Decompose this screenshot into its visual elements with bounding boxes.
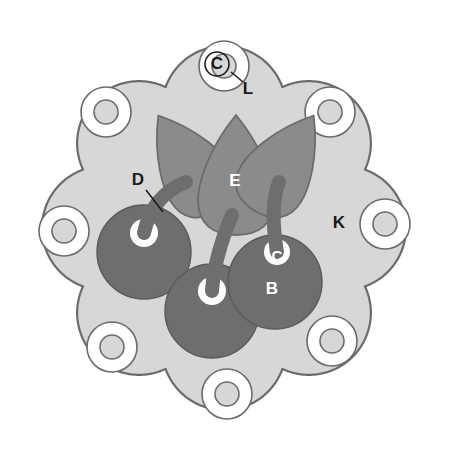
ring-inner-circle [318, 100, 342, 124]
ring-inner-circle [52, 219, 76, 243]
ring-top-left [81, 87, 131, 137]
label-b: B [266, 279, 278, 298]
stem-right-overlay [273, 182, 279, 252]
label-c-top: C [211, 54, 223, 73]
label-k: K [333, 213, 346, 232]
ring-bottom-left [87, 322, 137, 372]
ring-inner-circle [373, 212, 397, 236]
diagram-svg: CLDEKCB [0, 0, 449, 457]
ring-inner-circle [100, 335, 124, 359]
label-l: L [243, 79, 253, 98]
label-d: D [132, 170, 144, 189]
ring-right [360, 199, 410, 249]
label-c-inner: C [272, 247, 283, 264]
ring-left [39, 206, 89, 256]
ring-bottom [202, 369, 252, 419]
ring-bottom-right [307, 316, 357, 366]
figure-root: CLDEKCB [0, 0, 449, 457]
ring-inner-circle [320, 329, 344, 353]
ring-inner-circle [94, 100, 118, 124]
label-e: E [229, 171, 240, 190]
ring-inner-circle [215, 382, 239, 406]
ring-top [199, 41, 249, 91]
